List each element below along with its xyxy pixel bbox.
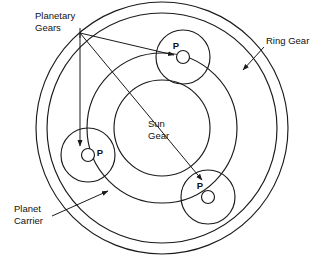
label-sun-gear-line2: Gear — [148, 130, 169, 141]
label-planetary-gears-line2: Gears — [35, 22, 61, 33]
label-planet-carrier-line1: Planet — [14, 203, 41, 214]
gear-diagram-svg: P P P Planetary Gears Ring Gear — [0, 0, 325, 274]
planetary-gear-diagram: P P P Planetary Gears Ring Gear — [0, 0, 325, 274]
label-sun-gear-line1: Sun — [148, 118, 165, 129]
planet-left-hub — [82, 149, 95, 162]
planet-top-hub — [177, 51, 190, 64]
planet-gear-bottom-right: P — [181, 170, 235, 224]
leader-planet-carrier — [52, 191, 108, 216]
label-ring-gear: Ring Gear — [266, 35, 309, 46]
planet-left-marker-label: P — [97, 147, 104, 158]
planet-gear-top: P — [156, 30, 210, 84]
planet-bottom-right-marker-label: P — [197, 180, 204, 191]
planet-bottom-right-hub — [202, 191, 215, 204]
label-planetary-gears-line1: Planetary — [35, 10, 75, 21]
label-planet-carrier-line2: Carrier — [14, 215, 43, 226]
planet-top-marker-label: P — [173, 40, 180, 51]
